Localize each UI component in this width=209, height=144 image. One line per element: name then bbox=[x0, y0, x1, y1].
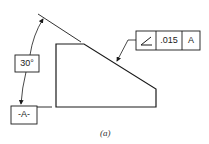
fcf-leader bbox=[117, 40, 136, 61]
fcf-datum-reference: A bbox=[182, 36, 200, 45]
angle-dimension-text: 30° bbox=[15, 59, 39, 68]
extension-line bbox=[38, 14, 81, 42]
angle-arc-lower bbox=[21, 72, 26, 104]
part-outline bbox=[56, 44, 156, 107]
angle-arc-upper bbox=[30, 19, 43, 55]
fcf-tolerance: .015 bbox=[156, 36, 182, 45]
figure-caption: (a) bbox=[100, 128, 111, 138]
drawing-canvas bbox=[0, 0, 209, 144]
datum-label: -A- bbox=[11, 110, 37, 119]
